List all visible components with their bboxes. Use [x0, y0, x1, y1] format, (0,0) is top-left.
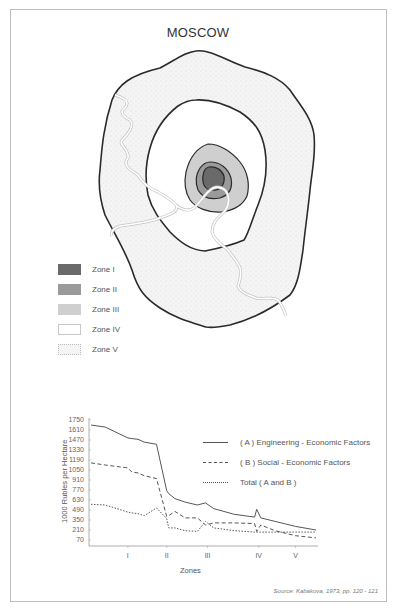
chart-y-label: 1000 Rubles per Hectare	[60, 440, 69, 523]
y-tick-label: 1330	[54, 446, 84, 453]
source-citation: Source: Kabakova, 1973, pp. 120 - 121	[274, 588, 378, 594]
y-tick-label: 770	[54, 486, 84, 493]
legend-label: Zone III	[92, 305, 119, 314]
legend-label: Zone V	[92, 345, 118, 354]
legend-label: ( A ) Engineering - Economic Factors	[240, 438, 370, 447]
dashed-line-swatch	[203, 462, 228, 463]
x-tick-label: II	[157, 552, 177, 559]
series-line	[91, 504, 316, 532]
y-tick-label: 1050	[54, 466, 84, 473]
dotted-line-swatch	[203, 482, 228, 483]
y-tick-label: 490	[54, 506, 84, 513]
zone-iv-swatch	[58, 324, 81, 335]
y-tick-label: 630	[54, 496, 84, 503]
y-tick-label: 1610	[54, 426, 84, 433]
x-tick-label: V	[286, 552, 306, 559]
legend-item-zone-v: Zone V	[58, 339, 120, 359]
y-tick-label: 70	[54, 536, 84, 543]
y-tick-label: 210	[54, 526, 84, 533]
y-tick-label: 1750	[54, 416, 84, 423]
legend-item-zone-ii: Zone II	[58, 279, 120, 299]
legend-label: Zone II	[92, 285, 117, 294]
legend-label: ( B ) Social - Economic Factors	[240, 458, 350, 467]
zone-iii-swatch	[58, 304, 81, 315]
chart-legend-item-engineering: ( A ) Engineering - Economic Factors	[203, 432, 370, 452]
y-tick-label: 1190	[54, 456, 84, 463]
chart-legend: ( A ) Engineering - Economic Factors ( B…	[203, 432, 370, 492]
legend-label: Zone I	[92, 265, 115, 274]
zone-v-swatch	[58, 344, 81, 355]
zone-ii-swatch	[58, 284, 81, 295]
chart-x-label: Zones	[180, 566, 201, 575]
legend-label: Total ( A and B )	[240, 478, 296, 487]
x-tick-label: I	[118, 552, 138, 559]
legend-label: Zone IV	[92, 325, 120, 334]
zone-i-swatch	[58, 264, 81, 275]
y-tick-label: 350	[54, 516, 84, 523]
x-tick-label: IV	[249, 552, 269, 559]
legend-item-zone-iv: Zone IV	[58, 319, 120, 339]
y-tick-label: 910	[54, 476, 84, 483]
map-legend: Zone I Zone II Zone III Zone IV Zone V	[58, 259, 120, 359]
y-tick-label: 1470	[54, 436, 84, 443]
chart-legend-item-social: ( B ) Social - Economic Factors	[203, 452, 370, 472]
x-tick-label: III	[198, 552, 218, 559]
solid-line-swatch	[203, 442, 228, 443]
chart-legend-item-total: Total ( A and B )	[203, 472, 370, 492]
legend-item-zone-iii: Zone III	[58, 299, 120, 319]
legend-item-zone-i: Zone I	[58, 259, 120, 279]
